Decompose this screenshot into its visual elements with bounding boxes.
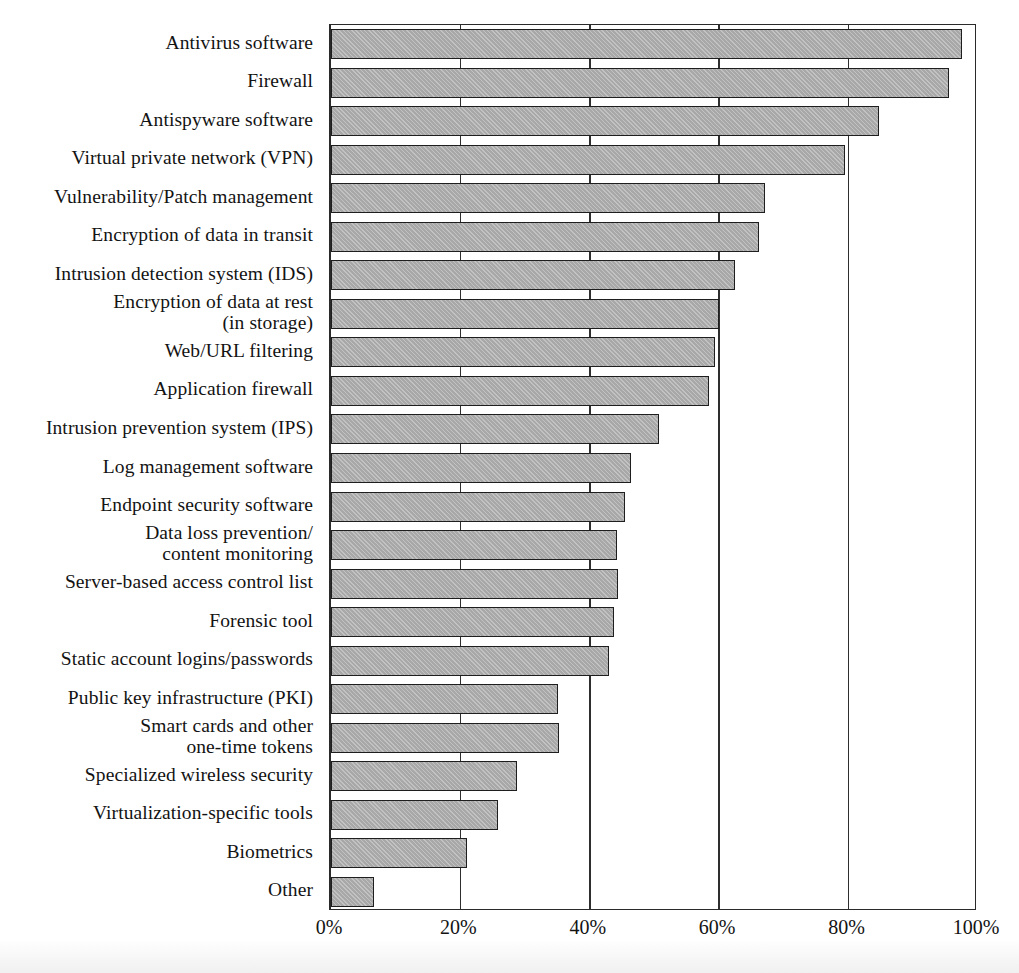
category-label: Static account logins/passwords <box>61 648 313 669</box>
bar <box>331 684 558 714</box>
bar <box>331 761 517 791</box>
category-label: Vulnerability/Patch management <box>54 186 313 207</box>
category-label: Antivirus software <box>166 32 313 53</box>
category-label: Virtualization-specific tools <box>93 802 313 823</box>
value-axis-tick-60: 60% <box>699 916 736 938</box>
category-axis-labels: Antivirus softwareFirewallAntispyware so… <box>0 24 322 910</box>
category-label: Web/URL filtering <box>165 340 313 361</box>
category-label: Virtual private network (VPN) <box>71 147 313 168</box>
category-label: Endpoint security software <box>100 494 313 515</box>
bar <box>331 492 625 522</box>
bar <box>331 800 498 830</box>
bar <box>331 414 659 444</box>
category-label: Server-based access control list <box>65 571 313 592</box>
value-axis-tick-20: 20% <box>440 916 477 938</box>
category-label: Application firewall <box>153 378 313 399</box>
category-label: Encryption of data at rest (in storage) <box>113 291 313 333</box>
value-axis-tick-80: 80% <box>828 916 865 938</box>
category-label: Forensic tool <box>209 610 313 631</box>
category-label: Log management software <box>103 456 313 477</box>
bar <box>331 337 715 367</box>
bar <box>331 260 735 290</box>
bar <box>331 29 962 59</box>
bar <box>331 145 845 175</box>
bar <box>331 106 879 136</box>
bar <box>331 299 719 329</box>
category-label: Public key infrastructure (PKI) <box>68 687 313 708</box>
category-label: Intrusion prevention system (IPS) <box>46 417 313 438</box>
category-label: Encryption of data in transit <box>91 224 313 245</box>
bar <box>331 68 949 98</box>
plot-area <box>329 24 976 910</box>
bar <box>331 877 374 907</box>
category-label: Antispyware software <box>139 109 313 130</box>
category-label: Intrusion detection system (IDS) <box>55 263 313 284</box>
category-label: Biometrics <box>226 841 313 862</box>
value-axis: 0%20%40%60%80%100% <box>329 910 976 956</box>
value-axis-tick-100: 100% <box>953 916 1000 938</box>
bar-chart: Antivirus softwareFirewallAntispyware so… <box>0 0 1019 973</box>
bar <box>331 183 765 213</box>
gridline-80 <box>848 25 850 909</box>
category-label: Data loss prevention/ content monitoring <box>145 522 313 564</box>
category-label: Smart cards and other one-time tokens <box>140 715 313 757</box>
category-label: Firewall <box>247 70 313 91</box>
category-label: Other <box>268 879 313 900</box>
bar <box>331 569 618 599</box>
bar <box>331 376 709 406</box>
bar <box>331 453 631 483</box>
bar <box>331 646 609 676</box>
value-axis-tick-40: 40% <box>569 916 606 938</box>
bar <box>331 723 559 753</box>
bar <box>331 838 467 868</box>
category-label: Specialized wireless security <box>85 764 313 785</box>
bar <box>331 530 617 560</box>
bar <box>331 222 759 252</box>
value-axis-tick-0: 0% <box>316 916 343 938</box>
bar <box>331 607 614 637</box>
